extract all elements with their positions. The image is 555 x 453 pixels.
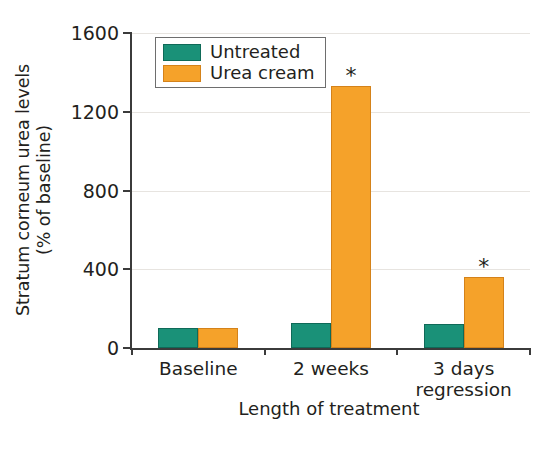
legend-label-untreated: Untreated: [210, 43, 300, 61]
x-tick-label: Baseline: [159, 359, 237, 380]
significance-marker: *: [478, 256, 489, 278]
y-axis-title: Stratum corneum urea levels (% of baseli…: [4, 10, 64, 370]
y-tick-label: 0: [107, 339, 119, 358]
legend-item-untreated: Untreated: [163, 43, 315, 61]
bar-urea-cream[interactable]: [198, 328, 238, 348]
y-tick-label: 400: [83, 260, 119, 279]
bar-urea-cream[interactable]: *: [331, 86, 371, 348]
bar-urea-cream[interactable]: *: [464, 277, 504, 348]
significance-marker: *: [346, 65, 357, 87]
chart-legend: Untreated Urea cream: [155, 37, 326, 88]
x-axis-title: Length of treatment: [130, 398, 528, 419]
x-tick-label-line: 3 days: [433, 358, 494, 379]
y-tick-mark: [123, 190, 132, 192]
x-tick-mark: [529, 348, 531, 355]
legend-item-urea-cream: Urea cream: [163, 64, 315, 82]
caption-strip: [0, 440, 555, 453]
x-tick-label: 3 daysregression: [415, 359, 511, 400]
bar-untreated[interactable]: [424, 324, 464, 348]
x-tick-label-line: 2 weeks: [293, 358, 369, 379]
bar-chart-figure: Stratum corneum urea levels (% of baseli…: [0, 0, 555, 453]
x-tick-mark: [396, 348, 398, 355]
x-tick-mark: [131, 348, 133, 355]
y-tick-mark: [123, 268, 132, 270]
bar-group: *: [424, 33, 504, 348]
legend-swatch-urea-cream-icon: [163, 65, 201, 82]
y-tick-mark: [123, 111, 132, 113]
y-axis-title-line-2: (% of baseline): [34, 125, 55, 255]
y-tick-mark: [123, 32, 132, 34]
y-axis-title-line-1: Stratum corneum urea levels: [13, 64, 34, 316]
x-tick-label: 2 weeks: [293, 359, 369, 380]
bar-untreated[interactable]: [291, 323, 331, 348]
x-tick-label-line: Baseline: [159, 358, 237, 379]
y-tick-label: 1600: [71, 24, 119, 43]
legend-swatch-untreated-icon: [163, 44, 201, 61]
legend-label-urea-cream: Urea cream: [210, 64, 315, 82]
x-tick-mark: [264, 348, 266, 355]
y-tick-label: 1200: [71, 102, 119, 121]
bar-untreated[interactable]: [158, 328, 198, 348]
y-tick-label: 800: [83, 181, 119, 200]
